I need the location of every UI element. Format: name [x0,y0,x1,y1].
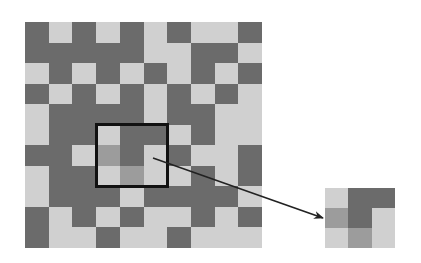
inset-cell [348,228,371,248]
inset-cell [348,208,371,228]
inset-cell [348,188,371,208]
inset-cell [325,208,348,228]
inset-cell [372,228,395,248]
zoomed-inset [325,188,395,248]
inset-cell [372,208,395,228]
inset-cell [372,188,395,208]
inset-cell [325,228,348,248]
inset-cell [325,188,348,208]
